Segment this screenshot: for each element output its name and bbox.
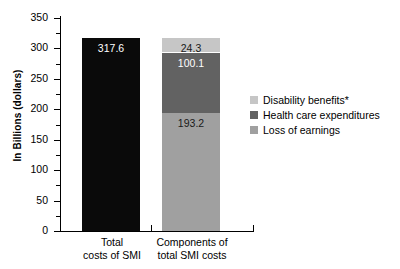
x-axis-category-divider <box>151 225 152 232</box>
y-tick-major <box>54 48 61 49</box>
y-tick-label: 50 <box>12 195 48 205</box>
x-axis-end-tick <box>253 225 254 232</box>
chart-figure: In Billions (dollars) 350300250200150100… <box>0 0 400 269</box>
x-category-label-total-line1: Total <box>72 236 152 249</box>
y-tick-minor <box>56 155 61 156</box>
x-category-label-components-line2: total SMI costs <box>146 249 238 262</box>
x-axis-line <box>60 231 254 232</box>
y-tick-label: 300 <box>12 42 48 52</box>
bar-value-label-health-care-expenditures: 100.1 <box>162 57 220 69</box>
chart-legend: Disability benefits* Health care expendi… <box>250 93 380 138</box>
bar-segment-loss-of-earnings <box>162 113 220 231</box>
legend-swatch-health-care-expenditures <box>250 111 258 119</box>
bar-total-costs <box>82 38 140 231</box>
y-tick-major <box>54 18 61 19</box>
y-tick-label: 250 <box>12 73 48 83</box>
y-tick-major <box>54 79 61 80</box>
y-tick-minor <box>56 185 61 186</box>
y-tick-label: 150 <box>12 134 48 144</box>
y-tick-minor <box>56 64 61 65</box>
legend-item-loss-of-earnings: Loss of earnings <box>250 123 380 137</box>
y-tick-minor <box>56 94 61 95</box>
y-tick-major <box>54 170 61 171</box>
bar-value-label-loss-of-earnings: 193.2 <box>162 117 220 129</box>
y-tick-label: 350 <box>12 12 48 22</box>
bar-value-label-disability-benefits: 24.3 <box>162 42 220 54</box>
y-tick-label: 200 <box>12 103 48 113</box>
legend-swatch-disability-benefits <box>250 96 258 104</box>
y-tick-major <box>54 231 61 232</box>
y-tick-major <box>54 109 61 110</box>
legend-label-loss-of-earnings: Loss of earnings <box>263 125 340 136</box>
legend-label-disability-benefits: Disability benefits* <box>263 95 349 106</box>
bar-value-label-total-costs: 317.6 <box>82 42 140 54</box>
legend-item-disability-benefits: Disability benefits* <box>250 93 380 107</box>
x-category-label-components-line1: Components of <box>146 236 238 249</box>
y-tick-minor <box>56 33 61 34</box>
y-tick-label: 100 <box>12 164 48 174</box>
legend-item-health-care-expenditures: Health care expenditures <box>250 108 380 122</box>
x-category-label-components: Components of total SMI costs <box>146 236 238 261</box>
y-axis-title: In Billions (dollars) <box>12 26 23 206</box>
legend-swatch-loss-of-earnings <box>250 126 258 134</box>
y-tick-label: 0 <box>12 225 48 235</box>
y-tick-major <box>54 140 61 141</box>
x-category-label-total-line2: costs of SMI <box>72 249 152 262</box>
legend-label-health-care-expenditures: Health care expenditures <box>263 110 380 121</box>
y-tick-minor <box>56 216 61 217</box>
x-category-label-total: Total costs of SMI <box>72 236 152 261</box>
y-tick-minor <box>56 125 61 126</box>
y-tick-major <box>54 201 61 202</box>
